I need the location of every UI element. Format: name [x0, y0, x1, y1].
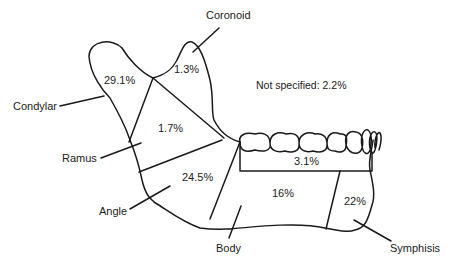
- label-body: Body: [216, 243, 241, 254]
- label-symphisis: Symphisis: [390, 243, 440, 254]
- pct-symphisis: 22%: [344, 196, 366, 207]
- pct-condylar: 29.1%: [104, 75, 135, 86]
- label-condylar: Condylar: [13, 101, 57, 112]
- body-symphisis-divider: [326, 171, 340, 229]
- symphisis-leader: [354, 220, 391, 241]
- pct-coronoid: 1.3%: [174, 64, 199, 75]
- body-leader: [229, 206, 241, 238]
- not-specified-note: Not specified: 2.2%: [256, 80, 346, 91]
- teeth: [240, 130, 381, 154]
- pct-body: 16%: [272, 188, 294, 199]
- pct-angle: 24.5%: [182, 172, 213, 183]
- condylar-ramus-divider: [129, 78, 153, 142]
- label-ramus: Ramus: [62, 153, 97, 164]
- angle-body-divider: [210, 142, 240, 219]
- condylar-leader: [60, 96, 104, 106]
- mandible-diagram: [0, 0, 453, 266]
- angle-leader: [130, 186, 170, 209]
- label-angle: Angle: [99, 206, 127, 217]
- pct-ramus: 1.7%: [158, 123, 183, 134]
- ramus-angle-divider: [139, 140, 222, 172]
- pct-alveolar: 3.1%: [294, 156, 319, 167]
- label-coronoid: Coronoid: [206, 10, 251, 21]
- coronoid-leader: [193, 28, 219, 52]
